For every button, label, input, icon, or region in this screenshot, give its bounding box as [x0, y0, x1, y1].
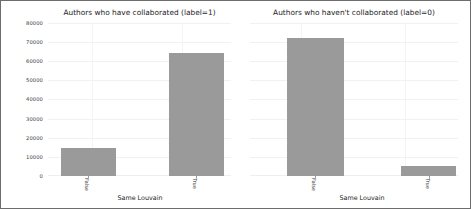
gridline [48, 42, 231, 43]
x-axis-title-left: Same Louvain [117, 194, 162, 202]
x-tick-label-true: True [192, 178, 198, 189]
gridline [250, 42, 458, 43]
bar-false [287, 38, 344, 176]
y-axis: 80000 70000 60000 50000 40000 30000 2000… [1, 1, 47, 209]
figure-canvas: 80000 70000 60000 50000 40000 30000 2000… [0, 0, 471, 209]
gridline [250, 157, 458, 158]
y-tick-label: 20000 [26, 135, 43, 141]
y-tick-label: 70000 [26, 39, 43, 45]
x-tick-label-false: False [84, 178, 90, 191]
gridline [250, 61, 458, 62]
y-tick-label: 10000 [26, 154, 43, 160]
x-tick-label-true: True [425, 178, 431, 189]
gridline [250, 23, 458, 24]
gridline [250, 99, 458, 100]
y-tick-label: 80000 [26, 20, 43, 26]
bar-true [401, 166, 456, 176]
bar-true [169, 53, 224, 176]
panel-title-left: Authors who have collaborated (label=1) [48, 8, 231, 17]
gridline [250, 119, 458, 120]
panel-label-1: Authors who have collaborated (label=1) [48, 23, 231, 176]
y-tick-label: 40000 [26, 96, 43, 102]
gridline [250, 80, 458, 81]
bar-false [61, 148, 116, 176]
gridline [250, 138, 458, 139]
y-tick-label: 50000 [26, 77, 43, 83]
x-axis-title-right: Same Louvain [339, 194, 384, 202]
vertical-gridline [405, 23, 406, 176]
gridline [48, 23, 231, 24]
y-tick-label: 30000 [26, 116, 43, 122]
y-tick-label: 0 [40, 173, 43, 179]
x-tick-label-false: False [311, 178, 317, 191]
panel-label-0: Authors who haven't collaborated (label=… [250, 23, 458, 176]
panel-title-right: Authors who haven't collaborated (label=… [250, 8, 458, 17]
y-tick-label: 60000 [26, 58, 43, 64]
